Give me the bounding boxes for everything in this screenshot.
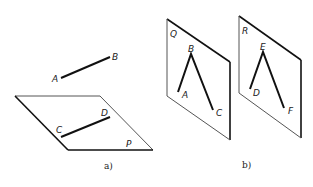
label-a: A	[51, 74, 58, 84]
label-c: C	[56, 125, 63, 135]
label-r: R	[242, 26, 248, 36]
label-b2: B	[188, 44, 194, 54]
caption-a: a)	[104, 161, 113, 171]
caption-b: b)	[242, 160, 251, 170]
plane-r	[239, 16, 301, 138]
label-q: Q	[170, 29, 177, 39]
segment-ab	[61, 57, 110, 78]
angle-def	[250, 52, 284, 108]
label-e: E	[260, 42, 266, 52]
segment-cd	[61, 117, 110, 137]
figure-b: Q B A C R E D F b)	[167, 16, 301, 170]
label-b: B	[112, 52, 118, 62]
label-p: P	[126, 139, 132, 149]
angle-abc	[178, 54, 213, 110]
geometry-diagram: A B P C D a) Q B A C R	[0, 0, 313, 187]
figure-a: A B P C D a)	[15, 52, 153, 171]
label-d2: D	[253, 88, 260, 98]
label-f: F	[288, 106, 294, 116]
plane-p	[15, 96, 153, 150]
label-a2: A	[181, 90, 188, 100]
label-d: D	[101, 108, 108, 118]
label-c2: C	[216, 108, 223, 118]
